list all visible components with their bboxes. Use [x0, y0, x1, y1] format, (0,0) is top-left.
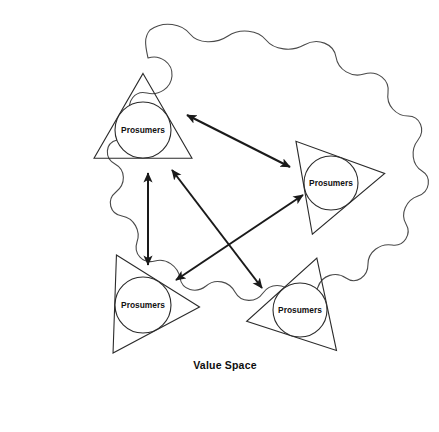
- value-space-label: Value Space: [193, 359, 257, 371]
- node-label-bottom-left: Prosumers: [121, 300, 165, 310]
- link-top-left-to-right: [187, 115, 290, 167]
- node-label-top-left: Prosumers: [121, 125, 165, 135]
- node-right[interactable]: Prosumers: [296, 141, 385, 234]
- value-space-boundary: [107, 24, 428, 300]
- link-top-left-to-bottom-right: [172, 170, 262, 288]
- node-bottom-left[interactable]: Prosumers: [113, 255, 200, 353]
- links-layer: [148, 115, 303, 288]
- node-bottom-right[interactable]: Prosumers: [247, 258, 337, 350]
- node-label-right: Prosumers: [309, 178, 353, 188]
- nodes-layer: Prosumers Prosumers Prosumers Prosumers: [94, 73, 385, 353]
- diagram-canvas: Prosumers Prosumers Prosumers Prosumers …: [0, 0, 439, 432]
- node-label-bottom-right: Prosumers: [278, 305, 322, 315]
- value-space-diagram: Prosumers Prosumers Prosumers Prosumers …: [0, 0, 439, 432]
- link-bottom-left-to-right: [176, 195, 303, 280]
